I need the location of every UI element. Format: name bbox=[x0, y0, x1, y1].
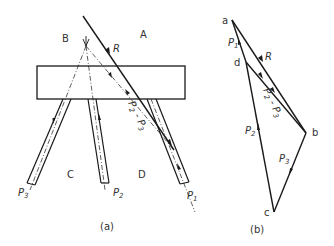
force-label-p1: P1 bbox=[228, 37, 239, 50]
force-label-p3: P3 bbox=[279, 153, 290, 166]
arrow-down-icon bbox=[108, 72, 112, 78]
strut-p2 bbox=[86, 46, 109, 190]
region-label-d: D bbox=[138, 169, 146, 180]
arrow-down-icon bbox=[289, 168, 293, 175]
point-load-arrow-icon bbox=[83, 36, 89, 46]
vector-r bbox=[232, 20, 306, 133]
region-label-a: A bbox=[140, 29, 147, 40]
point-label-b: b bbox=[312, 127, 318, 138]
space-diagram-a: B A C D R P3 P2 P1 P2 - P3 (a) bbox=[18, 16, 198, 232]
beam-rectangle bbox=[37, 66, 185, 99]
force-label-p2-minus-p3: P2 - P3 bbox=[124, 99, 149, 133]
force-label-r: R bbox=[265, 51, 272, 62]
arrow-up-icon bbox=[177, 163, 181, 170]
force-label-r: R bbox=[113, 43, 120, 54]
force-label-p2: P2 bbox=[245, 125, 256, 138]
point-label-d: d bbox=[234, 57, 240, 68]
point-label-a: a bbox=[222, 15, 228, 26]
arrow-up-icon bbox=[125, 89, 130, 95]
region-label-c: C bbox=[67, 169, 74, 180]
point-label-c: c bbox=[264, 207, 270, 218]
force-label-p1: P1 bbox=[187, 190, 198, 203]
region-label-b: B bbox=[62, 33, 69, 44]
force-label-p2: P2 bbox=[113, 187, 124, 200]
caption-b: (b) bbox=[250, 224, 264, 235]
force-diagram-figure: B A C D R P3 P2 P1 P2 - P3 (a) a d b c P… bbox=[0, 0, 334, 246]
force-label-p3: P3 bbox=[18, 187, 29, 200]
arrow-down-icon bbox=[53, 118, 56, 124]
caption-a: (a) bbox=[100, 221, 114, 232]
resultant-r-line bbox=[83, 16, 174, 150]
force-polygon-b: a d b c P1 R P2 P3 P2 - P3 (b) bbox=[222, 15, 318, 235]
strut-p3 bbox=[27, 46, 86, 190]
